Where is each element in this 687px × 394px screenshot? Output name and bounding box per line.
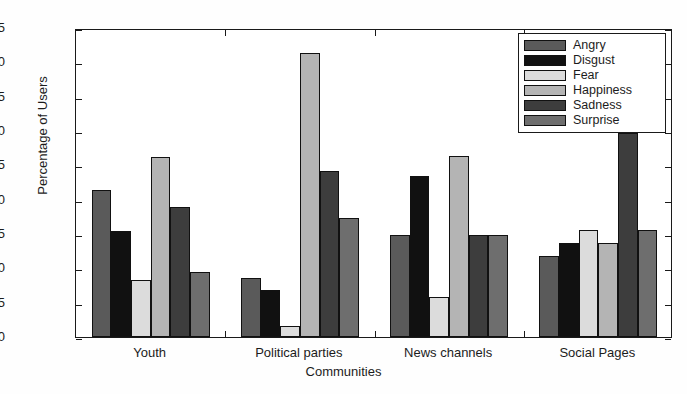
bar (618, 133, 638, 337)
y-tick-mark (665, 202, 671, 203)
y-tick-mark (665, 133, 671, 134)
legend-item[interactable]: Disgust (524, 53, 660, 68)
legend: Angry Disgust Fear Happiness Sadness Sur… (518, 33, 666, 133)
bar (488, 235, 508, 337)
legend-item[interactable]: Happiness (524, 83, 660, 98)
bar (320, 171, 340, 337)
bar (579, 230, 599, 337)
y-tick-mark (76, 64, 82, 65)
y-tick-label: 0 (0, 329, 5, 344)
y-tick-mark (76, 202, 82, 203)
legend-label: Surprise (573, 114, 620, 127)
bar (559, 243, 579, 337)
bar (170, 207, 190, 337)
x-tick-label: Youth (133, 345, 166, 360)
legend-swatch-disgust (524, 55, 566, 66)
bar (280, 326, 300, 337)
x-tick-mark (375, 30, 376, 36)
legend-label: Disgust (573, 54, 615, 67)
bar (92, 190, 112, 337)
bar (300, 53, 320, 337)
y-tick-mark (665, 30, 671, 31)
x-tick-mark (225, 331, 226, 337)
x-tick-label: Political parties (255, 345, 342, 360)
y-tick-label: 35 (0, 89, 5, 104)
bar (241, 278, 261, 337)
bar (190, 272, 210, 337)
legend-swatch-happiness (524, 85, 566, 96)
y-tick-label: 25 (0, 157, 5, 172)
y-tick-label: 20 (0, 192, 5, 207)
y-tick-mark (665, 305, 671, 306)
y-tick-mark (76, 270, 82, 271)
y-tick-label: 45 (0, 20, 5, 35)
y-tick-mark (76, 30, 82, 31)
bar (539, 256, 559, 337)
legend-swatch-angry (524, 40, 566, 51)
bar (151, 157, 171, 337)
legend-label: Sadness (573, 99, 622, 112)
y-tick-label: 5 (0, 295, 5, 310)
bar (429, 297, 449, 338)
y-tick-mark (665, 270, 671, 271)
y-tick-mark (665, 167, 671, 168)
bar (131, 280, 151, 337)
legend-label: Fear (573, 69, 599, 82)
y-tick-mark (76, 236, 82, 237)
legend-item[interactable]: Angry (524, 38, 660, 53)
bar (469, 235, 489, 337)
legend-swatch-sadness (524, 100, 566, 111)
x-axis-title: Communities (0, 364, 687, 379)
x-tick-mark (225, 30, 226, 36)
y-tick-label: 40 (0, 54, 5, 69)
legend-swatch-fear (524, 70, 566, 81)
y-tick-mark (76, 339, 82, 340)
bar (410, 176, 430, 337)
y-tick-mark (665, 339, 671, 340)
legend-item[interactable]: Fear (524, 68, 660, 83)
y-tick-label: 30 (0, 123, 5, 138)
bar (261, 290, 281, 337)
bar-chart-figure: Percentage of Users 051015202530354045 Y… (0, 0, 687, 394)
bar (638, 230, 658, 337)
legend-swatch-surprise (524, 115, 566, 126)
legend-label: Angry (573, 39, 606, 52)
legend-item[interactable]: Surprise (524, 113, 660, 128)
y-tick-mark (665, 236, 671, 237)
bar (339, 218, 359, 337)
x-tick-label: News channels (404, 345, 492, 360)
y-tick-label: 15 (0, 226, 5, 241)
y-tick-label: 10 (0, 260, 5, 275)
x-tick-label: Social Pages (559, 345, 635, 360)
y-tick-mark (76, 99, 82, 100)
bar (390, 235, 410, 337)
legend-item[interactable]: Sadness (524, 98, 660, 113)
bar (598, 243, 618, 337)
y-tick-mark (76, 133, 82, 134)
y-tick-mark (76, 167, 82, 168)
y-axis-title: Percentage of Users (35, 26, 50, 246)
y-tick-mark (76, 305, 82, 306)
x-tick-mark (524, 331, 525, 337)
bar (111, 231, 131, 337)
x-tick-mark (375, 331, 376, 337)
bar (449, 156, 469, 337)
legend-label: Happiness (573, 84, 632, 97)
